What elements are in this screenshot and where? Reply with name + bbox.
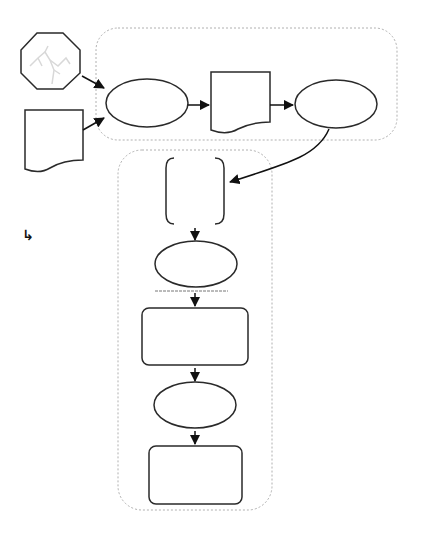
process-ellipse-4[interactable]: [154, 382, 236, 428]
process-ellipse-3[interactable]: [155, 241, 237, 287]
flowchart-canvas: [0, 0, 421, 534]
process-ellipse-2[interactable]: [295, 80, 377, 128]
document-input-node[interactable]: [25, 110, 83, 172]
octagon-input-node[interactable]: [21, 33, 80, 89]
edge-ellipse2-to-bracket: [230, 129, 329, 182]
document-mid-node[interactable]: [211, 72, 270, 133]
bracket-box-node[interactable]: [166, 158, 224, 224]
edge-octagon-to-ellipse1: [82, 76, 104, 88]
edge-document-to-ellipse1: [83, 118, 104, 130]
rounded-rect-1[interactable]: [142, 308, 248, 365]
process-ellipse-1[interactable]: [106, 79, 188, 127]
stray-arrow-glyph: ↳: [22, 228, 34, 242]
rounded-rect-2[interactable]: [149, 446, 242, 504]
